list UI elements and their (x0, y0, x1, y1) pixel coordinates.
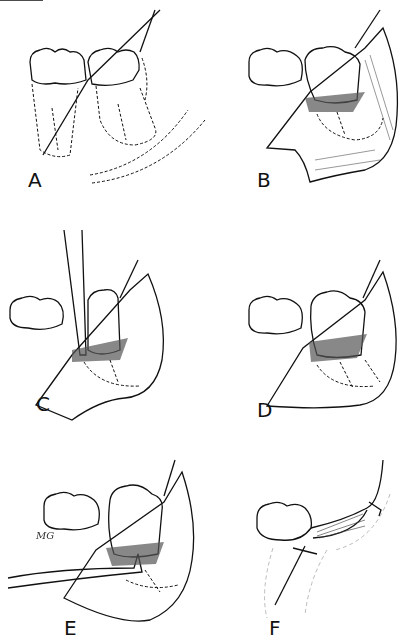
panel-b: B (205, 0, 409, 210)
panel-a: A (0, 0, 205, 210)
panel-f: MG F (205, 420, 409, 641)
tooth-diagram-b (205, 0, 409, 210)
panel-c: C (0, 210, 205, 420)
panel-label-c: C (36, 392, 50, 416)
panel-d: D (205, 210, 409, 420)
tooth-diagram-c (0, 210, 205, 420)
panel-label-d: D (257, 398, 272, 422)
panel-e: E (0, 420, 205, 641)
tooth-diagram-e (0, 420, 205, 641)
illustrator-signature: MG (36, 530, 54, 541)
panel-label-e: E (64, 616, 77, 640)
panel-label-a: A (28, 168, 42, 192)
panel-label-b: B (257, 168, 271, 192)
tooth-diagram-d (205, 210, 409, 420)
panel-label-f: F (269, 616, 281, 640)
tooth-diagram-f (205, 420, 409, 641)
